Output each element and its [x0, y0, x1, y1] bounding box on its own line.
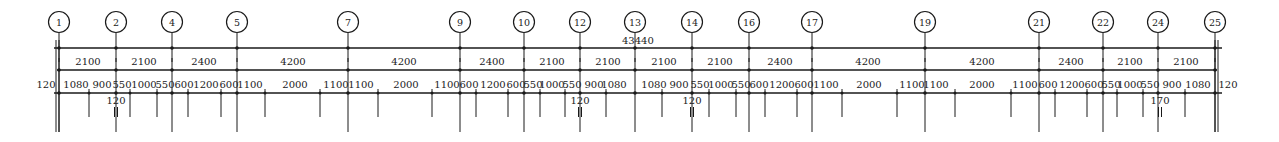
tick-node	[1054, 92, 1057, 95]
offset-dimension-label: 120	[682, 95, 701, 106]
offset-dimension-label: 170	[1150, 95, 1169, 106]
axis-spacing-label: 2100	[707, 56, 732, 67]
detail-dimension-label: 1100	[899, 79, 924, 90]
dimension-node	[170, 46, 174, 50]
detail-dimension-label: 900	[1162, 79, 1181, 90]
dimension-node	[1101, 91, 1105, 95]
dimension-node	[114, 46, 118, 50]
axis-14: 14	[682, 12, 703, 133]
dimension-node	[235, 91, 239, 95]
tick-node	[841, 92, 844, 95]
dimension-node	[522, 91, 526, 95]
dimension-node	[690, 68, 694, 72]
axis-5: 5	[227, 12, 248, 133]
axis-spacing-label: 2100	[131, 56, 156, 67]
detail-dimension-label: 900	[669, 79, 688, 90]
detail-dimension-label: 1200	[769, 79, 794, 90]
dimension-node	[235, 46, 239, 50]
dimension-node	[578, 46, 582, 50]
axis-spacing-label: 2100	[1117, 56, 1142, 67]
detail-dimension-label: 1100	[348, 79, 373, 90]
dimension-node	[346, 68, 350, 72]
axis-label: 17	[806, 17, 818, 28]
dimension-node	[810, 46, 814, 50]
detail-dimension-label: 1100	[434, 79, 459, 90]
detail-dimension-label: 1200	[480, 79, 505, 90]
axis-label: 19	[919, 17, 931, 28]
dimension-node	[1213, 46, 1217, 50]
detail-dimension-label: 550	[112, 79, 131, 90]
dimension-drawing: 1245791012131416171921222425 43440 21002…	[0, 0, 1279, 142]
dimension-node	[235, 68, 239, 72]
dimension-node	[923, 68, 927, 72]
dimension-node	[1213, 91, 1217, 95]
axis-label: 16	[743, 17, 755, 28]
detail-dimension-label: 2000	[282, 79, 307, 90]
detail-dimension-label: 2000	[393, 79, 418, 90]
detail-dimension-label: 1100	[923, 79, 948, 90]
detail-dimension-label: 1100	[323, 79, 348, 90]
offset-dimension-label: 120	[106, 95, 125, 106]
tick-node	[187, 92, 190, 95]
detail-dimension-label: 1100	[813, 79, 838, 90]
dimension-node	[170, 68, 174, 72]
axis-spacing-label: 2400	[191, 56, 216, 67]
tick-node	[88, 92, 91, 95]
detail-dimension-label: 550	[1140, 79, 1159, 90]
dimension-node	[690, 46, 694, 50]
detail-dimension-label: 600	[174, 79, 193, 90]
tick-node	[319, 92, 322, 95]
detail-dimension-label: 600	[749, 79, 768, 90]
tick-node	[1086, 92, 1089, 95]
tick-node	[507, 92, 510, 95]
dimension-node	[1156, 46, 1160, 50]
detail-dimension-label: 600	[1038, 79, 1057, 90]
tick-node	[377, 92, 380, 95]
axis-spacing-label: 2400	[767, 56, 792, 67]
axis-label: 14	[686, 17, 698, 28]
detail-dimension-label: 550	[562, 79, 581, 90]
overall-dimension-label: 43440	[622, 35, 654, 46]
detail-dimension-label: 600	[219, 79, 238, 90]
dimension-node	[1213, 68, 1217, 72]
label-group: 43440 2100210024004200420024002100210021…	[36, 35, 1237, 117]
dimension-node	[346, 91, 350, 95]
dimension-node	[1101, 46, 1105, 50]
dimension-node	[747, 68, 751, 72]
detail-dimension-label: 1000	[131, 79, 156, 90]
tick-node	[156, 92, 159, 95]
dimension-node	[633, 46, 637, 50]
detail-dimension-label: 1100	[237, 79, 262, 90]
detail-dimension-label: 120	[1218, 79, 1237, 90]
offset-dimension-label: 120	[570, 95, 589, 106]
axis-spacing-label: 2100	[539, 56, 564, 67]
axis-spacing-label: 4200	[280, 56, 305, 67]
axis-label: 4	[169, 17, 175, 28]
detail-dimension-label: 550	[155, 79, 174, 90]
dimension-node	[114, 68, 118, 72]
tick-node	[708, 92, 711, 95]
axis-1: 1	[49, 12, 70, 133]
axis-label: 5	[234, 17, 240, 28]
dimension-node	[57, 68, 61, 72]
tick-node	[264, 92, 267, 95]
tick-node	[1116, 92, 1119, 95]
tick-node	[796, 92, 799, 95]
tick-node	[1142, 92, 1145, 95]
axis-12: 12	[570, 12, 591, 133]
detail-dimension-label: 1000	[1117, 79, 1142, 90]
axis-10: 10	[514, 12, 535, 133]
dimension-node	[578, 68, 582, 72]
detail-dimension-label: 1000	[708, 79, 733, 90]
axis-spacing-label: 4200	[969, 56, 994, 67]
axis-2: 2	[106, 12, 127, 133]
axis-spacing-label: 2100	[1173, 56, 1198, 67]
detail-dimension-label: 1080	[63, 79, 88, 90]
dimension-node	[458, 91, 462, 95]
axis-label: 25	[1209, 17, 1221, 28]
tick-node	[129, 92, 132, 95]
axis-spacing-label: 4200	[391, 56, 416, 67]
axis-7: 7	[338, 12, 359, 133]
detail-dimension-label: 1000	[539, 79, 564, 90]
detail-dimension-label: 600	[459, 79, 478, 90]
